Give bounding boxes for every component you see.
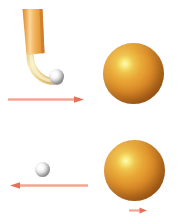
small-ball-top	[49, 69, 64, 84]
large-sphere-top	[103, 43, 164, 104]
collision-figure	[0, 0, 180, 218]
ball-rebound-arrow	[10, 181, 88, 190]
panel-before-collision	[0, 0, 180, 109]
sphere-recoil-arrow	[129, 206, 147, 215]
small-ball-bottom	[35, 162, 50, 177]
arrow-head-left-icon	[10, 182, 20, 189]
stick-velocity-arrow	[8, 95, 84, 104]
arrow-head-right-icon	[74, 96, 84, 103]
large-sphere-bottom	[104, 140, 165, 201]
arrow-head-right-icon	[140, 208, 148, 214]
